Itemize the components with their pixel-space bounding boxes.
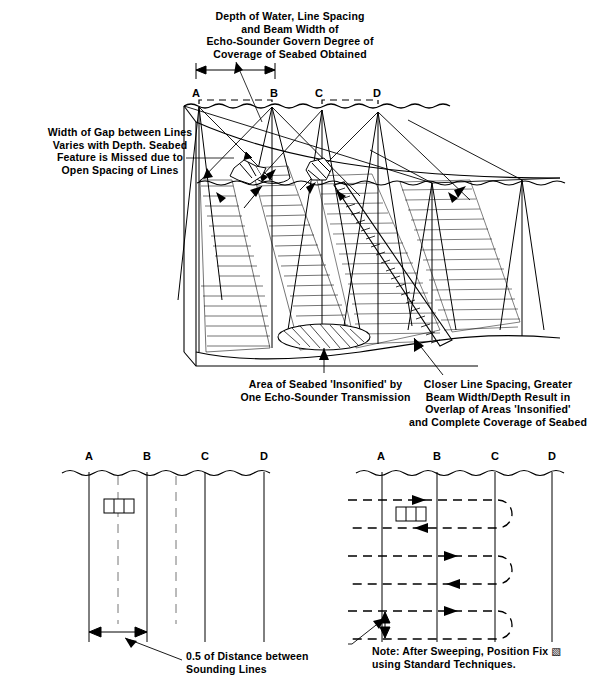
plan-right-surface: [356, 471, 564, 476]
title-leader-arrow: [234, 62, 243, 74]
missed-feature-arrow: [250, 186, 262, 197]
half-distance-dimension: [89, 627, 147, 637]
half-distance-leader-arrow: [125, 638, 137, 648]
seabed-feature-symbol-right: [396, 507, 426, 521]
beam-rays: [184, 106, 560, 200]
caption-overlap-coverage: Closer Line Spacing, Greater Beam Width/…: [398, 378, 598, 428]
insonified-strip-d: [400, 180, 520, 332]
sweep-track: [348, 500, 512, 639]
sea-surface-top: [184, 104, 450, 108]
plan-right-sounding-lines: [382, 472, 552, 642]
sweep-arrow-left-2: [446, 579, 460, 589]
beam-cones: [178, 107, 544, 352]
perspective-line-labels: A B C D: [192, 87, 381, 99]
sweep-arrow-right-1: [412, 495, 426, 505]
perspective-block-diagram: A B C D: [0, 0, 598, 440]
plan-right-label-A: A: [377, 450, 385, 462]
gap-bracket-ab: [199, 100, 272, 104]
label-A: A: [192, 87, 200, 99]
plan-right-label-D: D: [548, 450, 556, 462]
label-C: C: [315, 87, 323, 99]
plan-left-label-D: D: [260, 450, 268, 462]
caption-half-distance: 0.5 of Distance between Sounding Lines: [186, 650, 366, 675]
label-B: B: [270, 87, 278, 99]
plan-left-labels: A B C D: [85, 450, 268, 462]
label-D: D: [373, 87, 381, 99]
overlap-caption-arrow: [414, 338, 424, 352]
sweep-arrow-right-2: [444, 551, 458, 561]
plan-left-surface: [62, 471, 270, 476]
plan-left-label-A: A: [85, 450, 93, 462]
plan-right-label-C: C: [491, 450, 499, 462]
sweep-arrow-right-3: [444, 606, 458, 616]
insonified-ellipse: [278, 324, 370, 350]
plan-left-label-B: B: [143, 450, 151, 462]
plan-left-label-C: C: [201, 450, 209, 462]
sweep-arrow-left-1: [414, 523, 428, 533]
plan-right-label-B: B: [433, 450, 441, 462]
seabed-feature-symbol-left: [104, 499, 134, 513]
note-sweeping: Note: After Sweeping, Position Fix ▧ usi…: [372, 645, 592, 670]
plan-right-labels: A B C D: [377, 450, 556, 462]
